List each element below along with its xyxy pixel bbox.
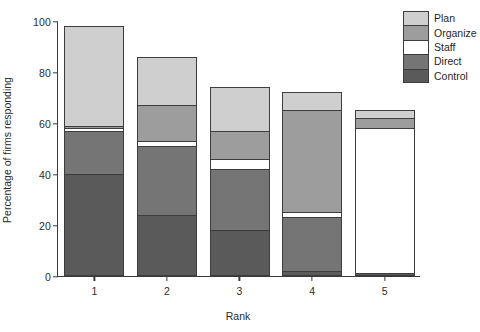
legend-label: Plan bbox=[429, 12, 455, 24]
legend-label: Direct bbox=[429, 55, 461, 67]
bar-stack-rank-5 bbox=[355, 110, 415, 276]
x-axis-tick-label: 4 bbox=[309, 276, 315, 297]
bar-segment-organize bbox=[355, 118, 415, 128]
legend-swatch-staff bbox=[403, 40, 429, 54]
legend: PlanOrganizeStaffDirectControl bbox=[403, 11, 475, 83]
bar-segment-direct bbox=[137, 146, 197, 215]
bar-segment-plan bbox=[210, 87, 270, 130]
legend-swatch-control bbox=[403, 69, 429, 83]
y-axis-tick-label: 60 bbox=[39, 118, 58, 130]
bar-segment-control bbox=[137, 215, 197, 276]
legend-item-plan: Plan bbox=[403, 11, 475, 25]
x-axis-tick-label: 1 bbox=[91, 276, 97, 297]
legend-item-control: Control bbox=[403, 69, 475, 83]
bar-stack-rank-3 bbox=[210, 87, 270, 276]
bar-segment-control bbox=[210, 230, 270, 276]
bar-segment-control bbox=[282, 271, 342, 276]
x-axis-tick-label: 2 bbox=[164, 276, 170, 297]
y-axis-tick-label: 20 bbox=[39, 220, 58, 232]
bar-segment-direct bbox=[210, 169, 270, 230]
x-axis-title: Rank bbox=[226, 310, 251, 322]
bar-segment-staff bbox=[282, 212, 342, 217]
bar-segment-control bbox=[355, 273, 415, 276]
bar-segment-plan bbox=[137, 57, 197, 105]
bar-segment-plan bbox=[64, 26, 124, 125]
bar-segment-organize bbox=[282, 110, 342, 212]
stacked-bar-chart: Percentage of firms responding 020406080… bbox=[0, 0, 480, 332]
plot-area: 020406080100 12345 bbox=[57, 22, 420, 277]
legend-swatch-organize bbox=[403, 25, 429, 39]
y-axis-tick-label: 0 bbox=[45, 271, 58, 283]
bar-stack-rank-4 bbox=[282, 92, 342, 276]
bar-segment-staff bbox=[210, 159, 270, 169]
legend-item-staff: Staff bbox=[403, 40, 475, 54]
y-axis-title: Percentage of firms responding bbox=[1, 77, 13, 223]
bar-segment-plan bbox=[355, 110, 415, 118]
bar-segment-staff bbox=[64, 128, 124, 131]
x-axis-tick-label: 5 bbox=[382, 276, 388, 297]
bar-segment-control bbox=[64, 174, 124, 276]
legend-item-organize: Organize bbox=[403, 25, 475, 39]
bar-segment-direct bbox=[282, 217, 342, 271]
bar-segment-organize bbox=[210, 131, 270, 159]
bar-stack-rank-1 bbox=[64, 26, 124, 276]
bar-segment-staff bbox=[137, 141, 197, 146]
bar-stack-rank-2 bbox=[137, 57, 197, 276]
legend-label: Organize bbox=[429, 27, 477, 39]
bar-segment-organize bbox=[64, 126, 124, 129]
bar-segment-staff bbox=[355, 128, 415, 273]
bar-segment-direct bbox=[64, 131, 124, 174]
y-axis-tick-label: 80 bbox=[39, 67, 58, 79]
bar-segment-plan bbox=[282, 92, 342, 110]
legend-swatch-plan bbox=[403, 11, 429, 25]
bar-segment-organize bbox=[137, 105, 197, 141]
legend-item-direct: Direct bbox=[403, 54, 475, 68]
legend-swatch-direct bbox=[403, 54, 429, 68]
x-axis-tick-label: 3 bbox=[237, 276, 243, 297]
y-axis-tick-label: 40 bbox=[39, 169, 58, 181]
y-axis-tick-label: 100 bbox=[33, 16, 58, 28]
legend-label: Staff bbox=[429, 41, 455, 53]
legend-label: Control bbox=[429, 70, 468, 82]
